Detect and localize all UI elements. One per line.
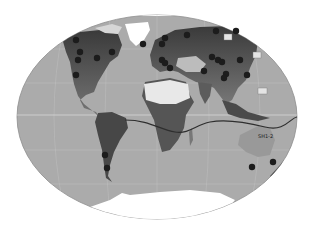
site-marker <box>73 37 79 43</box>
world-map: SH1-2 <box>0 0 311 231</box>
sahara <box>144 80 190 104</box>
site-marker <box>75 57 81 63</box>
site-marker <box>219 59 225 65</box>
site-marker <box>209 54 215 60</box>
site-marker <box>237 57 243 63</box>
site-marker <box>77 49 83 55</box>
site-marker <box>244 72 250 78</box>
label-box <box>253 52 261 58</box>
site-marker <box>73 72 79 78</box>
label-box <box>258 88 267 94</box>
site-marker <box>94 55 100 61</box>
site-marker <box>270 159 276 165</box>
site-marker <box>213 28 219 34</box>
site-marker <box>233 28 239 34</box>
site-marker <box>184 32 190 38</box>
site-marker <box>109 49 115 55</box>
site-marker <box>162 35 168 41</box>
map-labels: SH1-2 <box>258 133 273 139</box>
label-box <box>224 34 232 40</box>
site-marker <box>201 68 207 74</box>
site-marker <box>102 152 108 158</box>
site-marker <box>249 164 255 170</box>
site-marker <box>162 60 168 66</box>
antarctica <box>0 190 311 231</box>
site-marker <box>140 41 146 47</box>
site-marker <box>167 65 173 71</box>
site-marker <box>104 165 110 171</box>
site-marker <box>221 75 227 81</box>
site-marker <box>159 41 165 47</box>
map-label-sh1-2: SH1-2 <box>258 133 273 139</box>
